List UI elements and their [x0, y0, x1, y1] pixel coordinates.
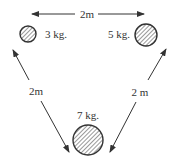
mass-7kg-label: 7 kg.: [77, 109, 99, 121]
right-distance-arrow: [110, 49, 166, 152]
left-distance-arrow: [13, 50, 69, 152]
top-distance-label: 2m: [80, 8, 95, 20]
left-distance-label: 2m: [29, 85, 44, 97]
three-mass-diagram: 2m 3 kg. 5 kg. 7 kg. 2m 2 m: [0, 0, 173, 167]
right-distance-label: 2 m: [132, 86, 149, 98]
mass-3kg-label: 3 kg.: [45, 28, 67, 40]
mass-5kg-circle: [135, 24, 157, 46]
mass-3kg-circle: [20, 26, 36, 42]
mass-5kg-label: 5 kg.: [108, 28, 130, 40]
mass-7kg-circle: [73, 125, 103, 155]
